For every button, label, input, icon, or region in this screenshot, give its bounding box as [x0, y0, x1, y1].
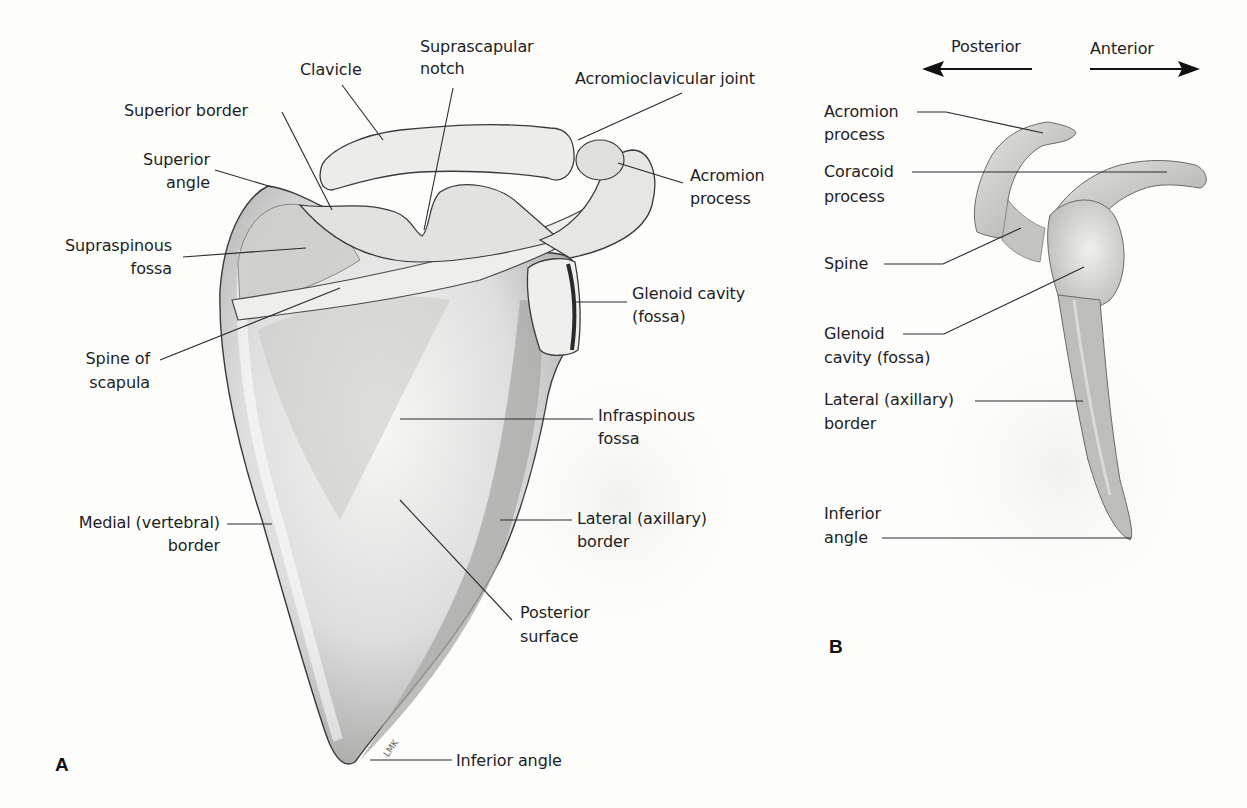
label-coracoid-process-line2: process: [824, 186, 885, 207]
scapula-figure: Clavicle Suprascapular notch Acromioclav…: [0, 0, 1247, 808]
label-inferior-angle-b-line2: angle: [824, 527, 868, 548]
label-spine-b: Spine: [824, 253, 868, 274]
panel-letter-a: A: [55, 754, 69, 776]
label-posterior-surface-line1: Posterior: [520, 602, 590, 623]
label-infraspinous-fossa-line2: fossa: [598, 428, 639, 449]
label-medial-border-line2: border: [30, 535, 220, 556]
label-inferior-angle-a: Inferior angle: [456, 750, 562, 771]
label-superior-angle-line1: Superior: [120, 149, 210, 170]
label-anterior-direction: Anterior: [1090, 38, 1154, 59]
label-glenoid-cavity-a-line1: Glenoid cavity: [632, 283, 745, 304]
label-superior-border: Superior border: [124, 100, 248, 121]
label-glenoid-cavity-a-line2: (fossa): [632, 306, 686, 327]
label-posterior-surface-line2: surface: [520, 626, 578, 647]
label-supraspinous-fossa-line2: fossa: [30, 258, 172, 279]
label-spine-of-scapula-line2: scapula: [50, 372, 150, 393]
label-supraspinous-fossa-line1: Supraspinous: [30, 235, 172, 256]
label-lateral-border-a-line2: border: [577, 531, 629, 552]
label-superior-angle-line2: angle: [120, 172, 210, 193]
label-inferior-angle-b-line1: Inferior: [824, 503, 881, 524]
posterior-arrow-icon: [922, 61, 1032, 77]
scapula-illustration: [0, 0, 1247, 808]
label-lateral-border-b-line2: border: [824, 413, 876, 434]
label-acromion-process-b-line2: process: [824, 124, 885, 145]
label-acromion-process-a-line1: Acromion: [690, 165, 765, 186]
label-infraspinous-fossa-line1: Infraspinous: [598, 405, 695, 426]
label-acromioclavicular-joint: Acromioclavicular joint: [575, 68, 755, 89]
panel-letter-b: B: [829, 636, 843, 658]
label-acromion-process-b-line1: Acromion: [824, 101, 899, 122]
label-coracoid-process-line1: Coracoid: [824, 161, 894, 182]
label-lateral-border-a-line1: Lateral (axillary): [577, 508, 707, 529]
label-suprascapular-notch-line2: notch: [420, 58, 465, 79]
label-lateral-border-b-line1: Lateral (axillary): [824, 389, 954, 410]
label-medial-border-line1: Medial (vertebral): [30, 512, 220, 533]
label-acromion-process-a-line2: process: [690, 188, 751, 209]
label-glenoid-cavity-b-line1: Glenoid: [824, 323, 885, 344]
label-spine-of-scapula-line1: Spine of: [50, 348, 150, 369]
label-posterior-direction: Posterior: [951, 36, 1021, 57]
label-glenoid-cavity-b-line2: cavity (fossa): [824, 347, 930, 368]
anterior-arrow-icon: [1090, 61, 1200, 77]
label-suprascapular-notch-line1: Suprascapular: [420, 36, 534, 57]
label-clavicle: Clavicle: [300, 59, 362, 80]
